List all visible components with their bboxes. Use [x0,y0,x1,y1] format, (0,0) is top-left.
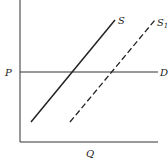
supply-label: S [118,15,125,26]
supply-shifted-subscript: 1 [164,22,168,30]
supply-shifted-line [70,20,155,122]
demand-label: D [159,67,168,78]
supply-line [31,20,115,122]
supply-shifted-label: S1 [157,17,168,30]
quantity-axis-label: Q [86,148,94,159]
supply-demand-diagram: P Q D S S1 [0,0,168,159]
price-axis-label: P [4,67,12,78]
